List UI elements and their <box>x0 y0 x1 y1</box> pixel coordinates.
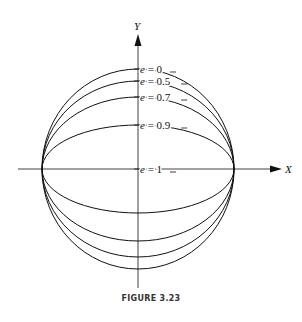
eccentricity-label: e = 0.5 <box>140 75 171 87</box>
x-axis-arrowhead <box>270 166 282 173</box>
eccentricity-label: e = 1 <box>140 163 162 175</box>
eccentricity-labels: e = 0e = 0.5e = 0.7e = 0.9e = 1 <box>134 63 187 175</box>
eccentricity-label: e = 0 <box>140 63 163 75</box>
y-axis-arrowhead <box>135 34 142 46</box>
y-axis-label: Y <box>134 20 142 32</box>
eccentricity-label: e = 0.7 <box>140 91 171 103</box>
eccentricity-label: e = 0.9 <box>140 119 171 131</box>
figure-caption: FIGURE 3.23 <box>0 294 302 303</box>
ellipse-eccentricity-diagram: X Y e = 0e = 0.5e = 0.7e = 0.9e = 1 <box>0 0 302 322</box>
x-axis-label: X <box>284 163 293 175</box>
